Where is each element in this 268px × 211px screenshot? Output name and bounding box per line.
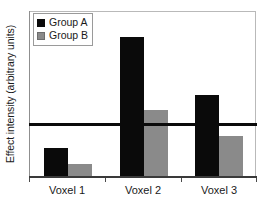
y-axis-line xyxy=(29,11,30,177)
chart-legend: Group A Group B xyxy=(33,13,93,46)
y-axis-title: Effect intensity (arbitrary units) xyxy=(4,25,16,163)
legend-label-group-a: Group A xyxy=(49,17,88,28)
x-axis-tick xyxy=(29,178,30,182)
x-axis-tick xyxy=(256,178,257,182)
x-axis-tick xyxy=(105,178,106,182)
legend-item-group-a: Group A xyxy=(37,16,88,29)
x-axis-label-voxel-1: Voxel 1 xyxy=(29,184,105,196)
bar-voxel-3-group-b xyxy=(219,136,243,176)
x-axis-line xyxy=(29,176,257,178)
x-axis-label-voxel-2: Voxel 2 xyxy=(105,184,181,196)
bar-voxel-3-group-a xyxy=(195,95,219,176)
x-axis-label-voxel-3: Voxel 3 xyxy=(181,184,257,196)
x-axis-tick xyxy=(181,178,182,182)
bar-chart-figure: Effect intensity (arbitrary units) Voxel… xyxy=(0,0,268,211)
bar-voxel-2-group-a xyxy=(120,37,144,176)
legend-item-group-b: Group B xyxy=(37,29,88,42)
bar-voxel-2-group-b xyxy=(144,110,168,176)
statistical-threshold-line xyxy=(29,123,257,126)
legend-label-group-b: Group B xyxy=(49,30,88,41)
gray-square-swatch-icon xyxy=(37,32,45,40)
bar-voxel-1-group-a xyxy=(44,148,68,176)
bar-voxel-1-group-b xyxy=(68,164,92,176)
black-square-swatch-icon xyxy=(37,19,45,27)
y-axis-title-container: Effect intensity (arbitrary units) xyxy=(0,11,20,177)
